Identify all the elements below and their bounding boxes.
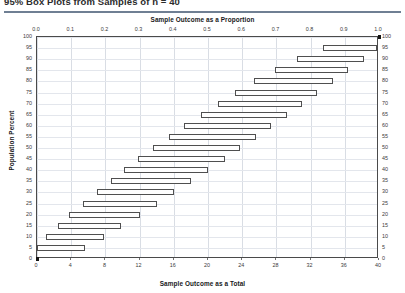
confidence-interval-box: [297, 56, 364, 62]
left-tick-label: 35: [14, 177, 32, 183]
bottom-tick-label: 24: [238, 262, 244, 268]
right-tick-label: 90: [382, 55, 400, 61]
right-tick-label: 40: [382, 166, 400, 172]
right-tick-label: 95: [382, 44, 400, 50]
top-tick-label: 0.5: [203, 26, 211, 32]
left-tick-label: 70: [14, 100, 32, 106]
endpoint-marker: [378, 35, 381, 38]
top-tick-label: 0.3: [135, 26, 143, 32]
gridline-horizontal: [37, 37, 377, 38]
top-tick-label: 0.2: [101, 26, 109, 32]
confidence-interval-box: [124, 167, 208, 173]
left-tick-label: 95: [14, 44, 32, 50]
left-tick-label: 25: [14, 200, 32, 206]
left-tick-label: 60: [14, 122, 32, 128]
left-tick-label: 10: [14, 233, 32, 239]
left-tick-label: 90: [14, 55, 32, 61]
left-tick-label: 40: [14, 166, 32, 172]
right-tick-label: 20: [382, 211, 400, 217]
right-tick-label: 10: [382, 233, 400, 239]
bottom-tick-mark: [310, 258, 311, 260]
right-tick-label: 55: [382, 133, 400, 139]
right-tick-label: 60: [382, 122, 400, 128]
confidence-interval-box: [218, 101, 302, 107]
top-tick-label: 0.1: [66, 26, 74, 32]
page-title: 95% Box Plots from Samples of n = 40: [4, 0, 180, 7]
confidence-interval-box: [235, 90, 317, 96]
confidence-interval-box: [69, 212, 139, 218]
left-tick-label: 55: [14, 133, 32, 139]
bottom-tick-label: 28: [272, 262, 278, 268]
gridline-horizontal: [37, 181, 377, 182]
right-tick-label: 35: [382, 177, 400, 183]
plot-area: [36, 36, 378, 258]
bottom-tick-mark: [104, 258, 105, 260]
left-tick-label: 85: [14, 66, 32, 72]
left-tick-label: 30: [14, 188, 32, 194]
confidence-interval-box: [323, 45, 378, 51]
endpoint-marker: [36, 257, 39, 260]
bottom-tick-mark: [275, 258, 276, 260]
top-tick-label: 0.8: [306, 26, 314, 32]
confidence-interval-box: [184, 123, 271, 129]
bottom-tick-mark: [70, 258, 71, 260]
bottom-tick-mark: [378, 258, 379, 260]
bottom-tick-label: 32: [307, 262, 313, 268]
bottom-tick-label: 36: [341, 262, 347, 268]
confidence-interval-box: [111, 178, 191, 184]
bottom-tick-mark: [139, 258, 140, 260]
top-tick-label: 0.0: [32, 26, 40, 32]
right-tick-label: 45: [382, 155, 400, 161]
right-tick-label: 0: [382, 255, 400, 261]
top-axis-title: Sample Outcome as a Proportion: [0, 16, 405, 23]
bottom-tick-mark: [344, 258, 345, 260]
left-tick-label: 0: [14, 255, 32, 261]
gridline-horizontal: [37, 248, 377, 249]
top-tick-label: 1.0: [374, 26, 382, 32]
right-tick-label: 25: [382, 200, 400, 206]
confidence-interval-box: [169, 134, 256, 140]
bottom-tick-label: 8: [103, 262, 106, 268]
right-tick-label: 65: [382, 111, 400, 117]
bottom-tick-label: 12: [136, 262, 142, 268]
confidence-interval-box: [201, 112, 287, 118]
bottom-tick-mark: [241, 258, 242, 260]
top-tick-label: 0.6: [237, 26, 245, 32]
left-tick-label: 50: [14, 144, 32, 150]
confidence-interval-box: [58, 223, 121, 229]
left-tick-label: 75: [14, 89, 32, 95]
bottom-tick-mark: [207, 258, 208, 260]
left-axis-title: Population Percent: [8, 109, 15, 173]
confidence-interval-box: [138, 156, 225, 162]
confidence-interval-box: [275, 67, 349, 73]
right-tick-label: 85: [382, 66, 400, 72]
top-tick-label: 0.4: [169, 26, 177, 32]
left-tick-label: 15: [14, 222, 32, 228]
gridline-horizontal: [37, 192, 377, 193]
gridline-horizontal: [37, 93, 377, 94]
left-tick-label: 20: [14, 211, 32, 217]
bottom-axis-title: Sample Outcome as a Total: [0, 280, 405, 287]
bottom-tick-mark: [173, 258, 174, 260]
confidence-interval-box: [37, 245, 85, 251]
left-tick-label: 100: [14, 33, 32, 39]
right-tick-label: 30: [382, 188, 400, 194]
right-tick-label: 75: [382, 89, 400, 95]
bottom-tick-label: 16: [170, 262, 176, 268]
confidence-interval-box: [97, 189, 174, 195]
confidence-interval-box: [83, 201, 157, 207]
right-tick-label: 100: [382, 33, 400, 39]
confidence-interval-box: [254, 78, 333, 84]
top-tick-label: 0.9: [340, 26, 348, 32]
right-tick-label: 80: [382, 77, 400, 83]
right-tick-label: 15: [382, 222, 400, 228]
left-tick-label: 5: [14, 244, 32, 250]
left-tick-label: 65: [14, 111, 32, 117]
left-tick-label: 80: [14, 77, 32, 83]
bottom-tick-label: 4: [69, 262, 72, 268]
right-tick-label: 70: [382, 100, 400, 106]
confidence-interval-box: [46, 234, 104, 240]
chart-root: 95% Box Plots from Samples of n = 40 Sam…: [0, 0, 405, 293]
confidence-interval-box: [153, 145, 240, 151]
bottom-tick-label: 40: [375, 262, 381, 268]
